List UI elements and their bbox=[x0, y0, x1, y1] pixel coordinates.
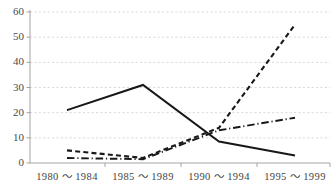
series-group bbox=[67, 25, 295, 160]
ytick-label-50: 50 bbox=[13, 30, 25, 42]
xtick-label-2: 1990 ～ 1994 bbox=[188, 171, 250, 182]
chart-canvas: 0102030405060 1980 ～ 19841985 ～ 19891990… bbox=[0, 0, 334, 188]
ytick-labels-group: 0102030405060 bbox=[13, 5, 25, 168]
xtick-label-0: 1980 ～ 1984 bbox=[36, 171, 98, 182]
axis-group bbox=[27, 10, 331, 167]
gridlines-group bbox=[30, 12, 330, 138]
ytick-label-20: 20 bbox=[13, 106, 25, 118]
xtick-label-1: 1985 ～ 1989 bbox=[112, 171, 174, 182]
ytick-label-30: 30 bbox=[13, 81, 25, 93]
xtick-labels-group: 1980 ～ 19841985 ～ 19891990 ～ 19941995 ～ … bbox=[36, 171, 326, 182]
xtick-label-3: 1995 ～ 1999 bbox=[264, 171, 326, 182]
ytick-label-40: 40 bbox=[13, 55, 25, 67]
ytick-label-60: 60 bbox=[13, 5, 25, 17]
ytick-label-0: 0 bbox=[19, 156, 25, 168]
ytick-label-10: 10 bbox=[13, 131, 25, 143]
line-chart-figure: 0102030405060 1980 ～ 19841985 ～ 19891990… bbox=[0, 0, 334, 188]
